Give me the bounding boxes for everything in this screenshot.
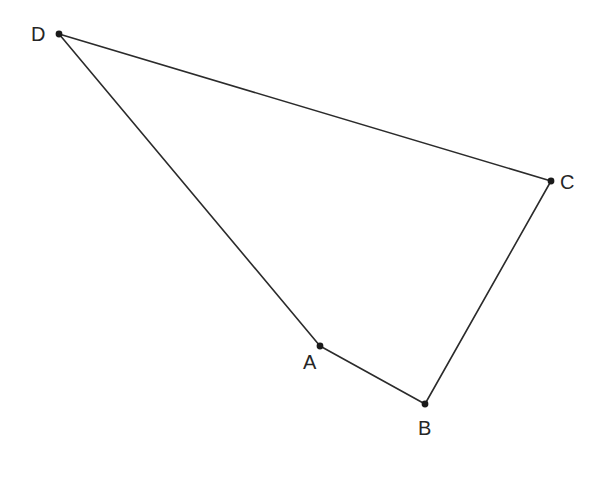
edge-CB [425,181,551,404]
vertex-dot-C [548,178,555,185]
vertex-label-B: B [418,418,431,438]
vertex-dot-A [317,343,324,350]
vertex-label-D: D [31,24,45,44]
geometry-figure-canvas: D C B A [0,0,604,477]
vertex-dot-D [56,31,63,38]
edge-AD [59,34,320,346]
vertex-label-A: A [303,352,316,372]
edge-group [59,34,551,404]
vertex-dot-B [422,401,429,408]
geometry-figure-svg [0,0,604,477]
edge-BA [320,346,425,404]
edge-DC [59,34,551,181]
vertex-label-C: C [560,172,574,192]
